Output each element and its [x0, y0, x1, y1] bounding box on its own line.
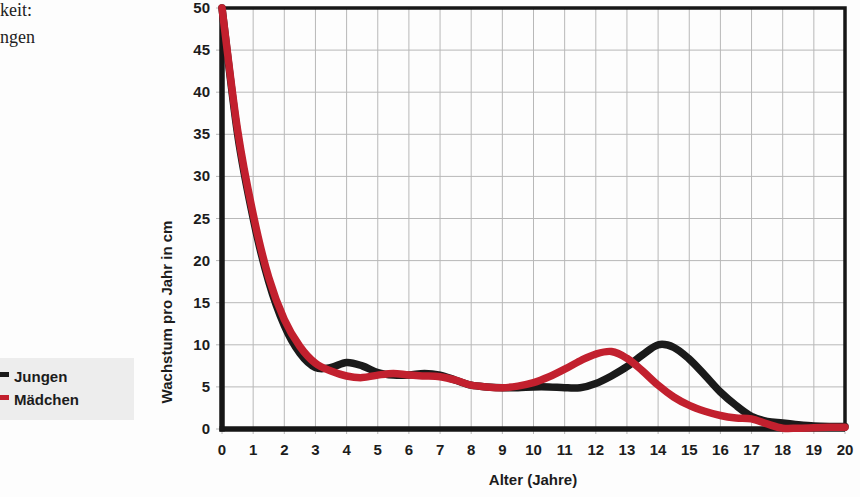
x-tick-label: 2	[280, 441, 288, 458]
y-tick-label: 5	[142, 378, 210, 396]
x-tick-label: 16	[712, 441, 729, 458]
plot-canvas	[222, 8, 845, 429]
x-tick-label: 13	[619, 441, 636, 458]
x-tick-label: 8	[467, 441, 475, 458]
x-tick-label: 5	[374, 441, 382, 458]
y-tick-label: 0	[142, 420, 210, 438]
growth-velocity-chart: Alter (Jahre) Wachstum pro Jahr in cm 01…	[0, 0, 860, 497]
x-tick-label: 6	[405, 441, 413, 458]
x-tick-label: 11	[557, 441, 573, 458]
y-tick-label: 50	[142, 0, 210, 17]
y-tick-label: 25	[142, 210, 210, 228]
x-tick-label: 17	[743, 441, 760, 458]
x-tick-label: 7	[436, 441, 444, 458]
y-tick-label: 20	[142, 252, 210, 270]
x-tick-label: 15	[681, 441, 698, 458]
x-tick-label: 9	[498, 441, 506, 458]
x-tick-label: 18	[774, 441, 791, 458]
x-axis-title: Alter (Jahre)	[489, 471, 577, 488]
x-tick-label: 3	[311, 441, 319, 458]
x-tick-label: 20	[837, 441, 854, 458]
plot-area	[222, 8, 845, 429]
x-tick-label: 4	[342, 441, 350, 458]
y-tick-label: 45	[142, 41, 210, 59]
x-tick-label: 1	[249, 441, 257, 458]
x-tick-label: 10	[525, 441, 542, 458]
x-tick-label: 0	[218, 441, 226, 458]
y-tick-label: 15	[142, 294, 210, 312]
x-tick-label: 19	[806, 441, 823, 458]
y-tick-label: 35	[142, 125, 210, 143]
y-axis-title: Wachstum pro Jahr in cm	[158, 221, 175, 404]
y-tick-label: 30	[142, 167, 210, 185]
x-tick-label: 14	[650, 441, 667, 458]
y-tick-label: 40	[142, 83, 210, 101]
x-tick-label: 12	[587, 441, 604, 458]
y-tick-label: 10	[142, 336, 210, 354]
